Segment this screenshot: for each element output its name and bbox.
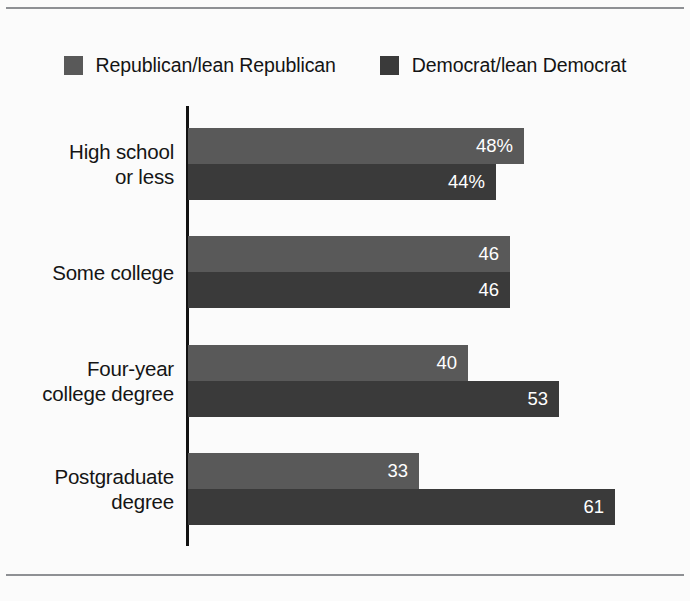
bar-value-label: 33 <box>387 460 419 482</box>
bar-democrat: 61 <box>188 489 615 525</box>
legend-item: Democrat/lean Democrat <box>380 54 627 77</box>
bar-republican: 33 <box>188 453 419 489</box>
bar-democrat: 44% <box>188 164 496 200</box>
bottom-divider-rule <box>6 574 684 576</box>
bar-value-label: 46 <box>478 279 510 301</box>
category-label-line: Four-year <box>0 356 174 381</box>
plot-area: High schoolor less48%44%Some college4646… <box>0 100 690 552</box>
category-label-line: Postgraduate <box>0 464 174 489</box>
category-label-line: Some college <box>0 260 174 285</box>
chart-legend: Republican/lean RepublicanDemocrat/lean … <box>0 50 690 80</box>
bar-value-label: 61 <box>583 496 615 518</box>
bar-value-label: 40 <box>436 352 468 374</box>
bar-group: Some college4646 <box>0 236 690 308</box>
category-label: Postgraduatedegree <box>0 464 174 514</box>
top-divider-rule <box>6 7 684 9</box>
category-label-line: High school <box>0 139 174 164</box>
legend-swatch-democrat <box>380 56 399 75</box>
bar-group: Postgraduatedegree3361 <box>0 453 690 525</box>
bar-chart-figure: Republican/lean RepublicanDemocrat/lean … <box>0 0 690 601</box>
legend-item-label: Democrat/lean Democrat <box>412 54 627 77</box>
bar-group: Four-yearcollege degree4053 <box>0 345 690 417</box>
bar-value-label: 44% <box>448 171 496 193</box>
category-label: High schoolor less <box>0 139 174 189</box>
bar-value-label: 46 <box>478 243 510 265</box>
category-label: Four-yearcollege degree <box>0 356 174 406</box>
bar-republican: 48% <box>188 128 524 164</box>
bar-republican: 40 <box>188 345 468 381</box>
bar-value-label: 48% <box>476 135 524 157</box>
legend-swatch-republican <box>64 56 83 75</box>
bar-republican: 46 <box>188 236 510 272</box>
category-label-line: college degree <box>0 381 174 406</box>
bar-democrat: 46 <box>188 272 510 308</box>
legend-item-label: Republican/lean Republican <box>96 54 336 77</box>
bar-group: High schoolor less48%44% <box>0 128 690 200</box>
category-label: Some college <box>0 260 174 285</box>
legend-item: Republican/lean Republican <box>64 54 336 77</box>
bar-value-label: 53 <box>527 388 559 410</box>
category-label-line: or less <box>0 164 174 189</box>
bar-democrat: 53 <box>188 381 559 417</box>
category-label-line: degree <box>0 489 174 514</box>
